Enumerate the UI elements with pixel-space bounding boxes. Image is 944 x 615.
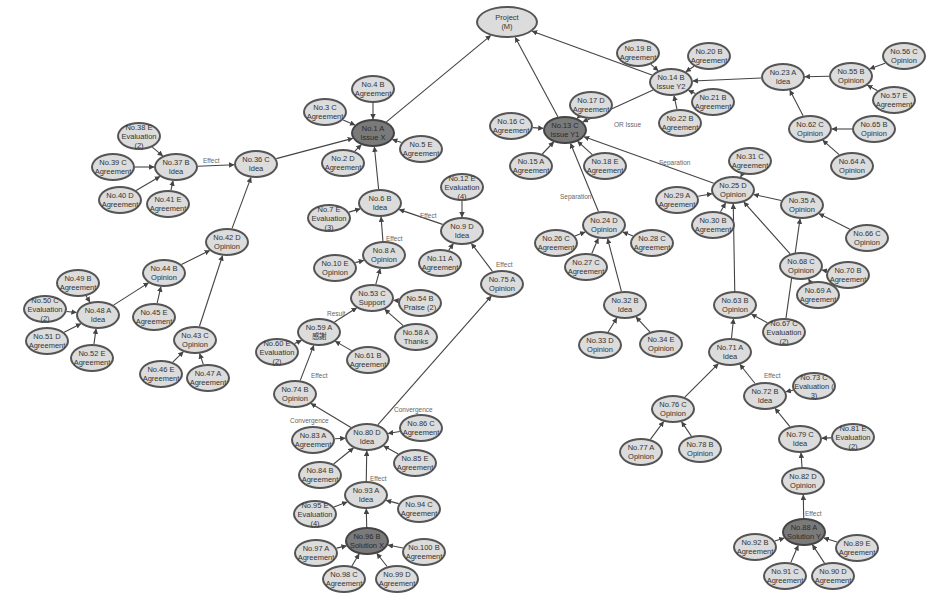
node-20[interactable]: No.20 BAgreement	[687, 42, 731, 70]
node-29[interactable]: No.29 AAgreement	[655, 186, 699, 214]
node-4[interactable]: No.4 BAgreement	[351, 75, 395, 103]
node-85[interactable]: No.85 EAgreement	[393, 449, 437, 477]
node-27[interactable]: No.27 CAgreement	[564, 253, 608, 281]
node-49[interactable]: No.49 BAgreement	[56, 269, 100, 297]
node-65[interactable]: No.65 BOpinion	[852, 115, 896, 143]
node-93[interactable]: No.93 AIdea	[344, 481, 388, 509]
node-28[interactable]: No.28 CAgreement	[630, 229, 674, 257]
node-12[interactable]: No.12 EEvaluation(4)	[440, 173, 484, 201]
node-33[interactable]: No.33 DOpinion	[578, 331, 622, 359]
node-82[interactable]: No.82 DOpinion	[781, 467, 825, 495]
node-60[interactable]: No.60 EEvaluation(2)	[255, 338, 299, 366]
node-81[interactable]: No.81 EEvaluation(2)	[831, 423, 875, 451]
node-52[interactable]: No.52 EAgreement	[70, 344, 114, 372]
node-35[interactable]: No.35 AOpinion	[780, 191, 824, 219]
node-10[interactable]: No.10 EOpinion	[313, 254, 357, 282]
node-55[interactable]: No.55 BOpinion	[829, 62, 873, 90]
node-56[interactable]: No.56 COpinion	[882, 42, 926, 70]
node-34[interactable]: No.34 EOpinion	[639, 330, 683, 358]
node-13[interactable]: No.13 CIssue Y1	[543, 116, 587, 144]
node-31[interactable]: No.31 CAgreement	[728, 147, 772, 175]
node-15[interactable]: No.15 AAgreement	[509, 152, 553, 180]
node-100[interactable]: No.100 BAgreement	[402, 538, 446, 566]
node-41[interactable]: No.41 EAgreement	[146, 190, 190, 218]
node-2[interactable]: No.2 DAgreement	[321, 149, 365, 177]
node-86[interactable]: No.86 CAgreement	[399, 414, 443, 442]
node-63[interactable]: No.63 BOpinion	[713, 291, 757, 319]
node-40[interactable]: No.40 DAgreement	[98, 186, 142, 214]
node-6[interactable]: No.6 BIdea	[358, 189, 402, 217]
node-70[interactable]: No.70 BAgreement	[826, 261, 870, 289]
node-43[interactable]: No.43 COpinion	[173, 326, 217, 354]
node-99[interactable]: No.99 DAgreement	[375, 565, 419, 593]
node-14[interactable]: No.14 BIssue Y2	[649, 68, 693, 96]
node-73[interactable]: No.73 CEvaluation (3)	[792, 372, 836, 400]
node-45[interactable]: No.45 EAgreement	[132, 303, 176, 331]
node-57[interactable]: No.57 EAgreement	[872, 86, 916, 114]
node-98[interactable]: No.98 CAgreement	[322, 565, 366, 593]
node-label-line: No.96 B	[353, 532, 380, 541]
node-96[interactable]: No.96 BSolution X	[345, 527, 389, 555]
node-91[interactable]: No.91 CAgreement	[763, 562, 807, 590]
node-17[interactable]: No.17 DAgreement	[569, 91, 613, 119]
node-24[interactable]: No.24 DOpinion	[582, 211, 626, 239]
node-83[interactable]: No.83 AAgreement	[291, 426, 335, 454]
node-P[interactable]: Project(M)	[476, 6, 538, 38]
node-59[interactable]: No.59 A感謝	[297, 318, 341, 346]
node-66[interactable]: No.66 COpinion	[845, 224, 889, 252]
node-8[interactable]: No.8 AOpinion	[362, 241, 406, 269]
node-19[interactable]: No.19 BAgreement	[616, 39, 660, 67]
node-18[interactable]: No.18 EAgreement	[583, 152, 627, 180]
node-97[interactable]: No.97 AAgreement	[294, 539, 338, 567]
node-64[interactable]: No.64 AOpinion	[830, 152, 874, 180]
node-48[interactable]: No.48 AIdea	[76, 301, 120, 329]
node-51[interactable]: No.51 DAgreement	[25, 327, 69, 355]
node-23[interactable]: No.23 AIdea	[761, 63, 805, 91]
node-30[interactable]: No.30 BAgreement	[691, 211, 735, 239]
node-11[interactable]: No.11 AAgreement	[418, 249, 462, 277]
node-95[interactable]: No.95 EEvaluation(4)	[293, 500, 337, 528]
node-46[interactable]: No.46 EAgreement	[139, 360, 183, 388]
node-5[interactable]: No.5 EAgreement	[399, 135, 443, 163]
node-94[interactable]: No.94 CAgreement	[397, 495, 441, 523]
node-47[interactable]: No.47 AAgreement	[186, 364, 230, 392]
node-61[interactable]: No.61 BAgreement	[346, 346, 390, 374]
node-37[interactable]: No.37 BIdea	[154, 153, 198, 181]
node-74[interactable]: No.74 BOpinion	[273, 380, 317, 408]
node-44[interactable]: No.44 BOpinion	[142, 259, 186, 287]
node-25[interactable]: No.25 DOpinion	[711, 176, 755, 204]
node-58[interactable]: No.58 AThanks	[394, 323, 438, 351]
node-67[interactable]: No.67 CEvaluation(2)	[762, 318, 806, 346]
node-62[interactable]: No.62 COpinion	[788, 115, 832, 143]
node-26[interactable]: No.26 CAgreement	[534, 229, 578, 257]
node-77[interactable]: No.77 AOpinion	[619, 438, 663, 466]
node-36[interactable]: No.36 CIdea	[234, 150, 278, 178]
node-42[interactable]: No.42 DOpinion	[205, 228, 249, 256]
node-71[interactable]: No.71 AIdea	[708, 338, 752, 366]
node-80[interactable]: No.80 DIdea	[345, 423, 389, 451]
node-32[interactable]: No.32 BIdea	[603, 291, 647, 319]
node-90[interactable]: No.90 DAgreement	[811, 562, 855, 590]
node-75[interactable]: No.75 AOpinion	[480, 270, 524, 298]
node-54[interactable]: No.54 BPraise (2)	[398, 289, 442, 317]
node-3[interactable]: No.3 CAgreement	[303, 98, 347, 126]
node-21[interactable]: No.21 BAgreement	[691, 88, 735, 116]
node-22[interactable]: No.22 BAgreement	[658, 109, 702, 137]
node-38[interactable]: No.38 EEvaluation(2)	[117, 122, 161, 150]
node-16[interactable]: No.16 CAgreement	[489, 112, 533, 140]
node-50[interactable]: No.50 CEvaluation(2)	[23, 295, 67, 323]
node-7[interactable]: No.7 EEvaluation(3)	[307, 204, 351, 232]
node-88[interactable]: No.88 ASolution Y	[782, 518, 826, 546]
node-53[interactable]: No.53 CSupport	[350, 284, 394, 312]
node-9[interactable]: No.9 DIdea	[440, 217, 484, 245]
node-1[interactable]: No.1 AIssue X	[351, 119, 395, 147]
node-84[interactable]: No.84 BAgreement	[298, 461, 342, 489]
node-92[interactable]: No.92 BAgreement	[733, 533, 777, 561]
node-76[interactable]: No.76 COpinion	[651, 395, 695, 423]
node-39[interactable]: No.39 CAgreement	[91, 153, 135, 181]
node-78[interactable]: No.78 BOpinion	[678, 435, 722, 463]
node-79[interactable]: No.79 CIdea	[778, 425, 822, 453]
node-89[interactable]: No.89 EAgreement	[835, 534, 879, 562]
node-72[interactable]: No.72 BIdea	[743, 382, 787, 410]
node-68[interactable]: No.68 COpinion	[779, 252, 823, 280]
